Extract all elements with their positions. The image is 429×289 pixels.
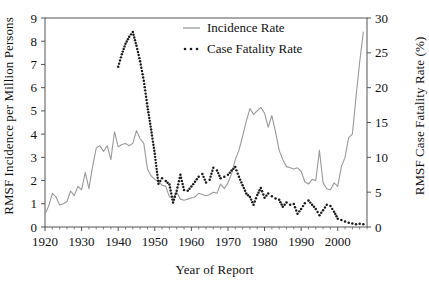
data-point xyxy=(295,209,297,211)
data-point xyxy=(171,195,173,197)
data-point xyxy=(261,190,263,192)
y-tick-label-left: 4 xyxy=(31,127,38,142)
data-point xyxy=(289,203,292,206)
data-point xyxy=(117,66,120,69)
legend-swatch-dotted xyxy=(184,48,187,51)
y-tick-label-left: 1 xyxy=(31,196,38,211)
data-point xyxy=(143,79,146,82)
data-point xyxy=(121,53,124,56)
data-point xyxy=(149,125,151,127)
y-tick-label-left: 6 xyxy=(31,80,38,95)
y-tick-label-right: 5 xyxy=(375,185,382,200)
data-point xyxy=(156,174,158,176)
data-point xyxy=(152,144,154,146)
data-point xyxy=(204,178,206,180)
data-point xyxy=(154,159,156,161)
data-point xyxy=(135,42,137,44)
data-point xyxy=(197,176,200,179)
data-point xyxy=(216,169,219,172)
data-point xyxy=(251,201,253,203)
data-point xyxy=(260,187,263,190)
data-point xyxy=(229,171,231,173)
y-tick-label-left: 3 xyxy=(31,150,38,165)
data-point xyxy=(169,189,171,191)
data-point xyxy=(156,171,158,173)
data-point xyxy=(336,217,339,220)
data-point xyxy=(142,76,144,78)
data-point xyxy=(235,169,237,171)
x-axis-ticks: 192019301940195019601970198019902000 xyxy=(32,227,367,249)
data-point xyxy=(149,123,151,125)
data-point xyxy=(285,201,288,204)
data-point xyxy=(155,168,157,170)
data-point xyxy=(334,213,336,215)
data-point xyxy=(133,36,135,38)
data-point xyxy=(144,92,146,94)
data-point xyxy=(271,195,274,198)
data-point xyxy=(211,170,213,172)
data-point xyxy=(154,156,156,158)
data-point xyxy=(161,177,164,180)
data-point xyxy=(150,131,152,133)
data-point xyxy=(152,140,154,142)
data-point xyxy=(150,128,153,131)
data-point xyxy=(120,56,122,58)
data-point xyxy=(250,198,252,200)
data-point xyxy=(178,180,180,182)
data-point xyxy=(333,210,336,213)
data-point xyxy=(165,180,168,183)
data-point xyxy=(188,187,190,189)
data-point xyxy=(145,99,147,101)
y-tick-label-left: 9 xyxy=(31,11,38,26)
data-point xyxy=(202,176,204,178)
data-point xyxy=(143,83,145,85)
data-point xyxy=(175,193,177,195)
data-point xyxy=(140,66,142,68)
data-point xyxy=(166,182,168,184)
data-point xyxy=(183,189,186,192)
data-point xyxy=(170,192,172,194)
data-series-group xyxy=(45,31,365,226)
data-point xyxy=(300,208,303,211)
data-point xyxy=(147,111,149,113)
data-point xyxy=(151,134,153,136)
y-tick-label-right: 25 xyxy=(375,45,388,60)
data-point xyxy=(148,117,150,119)
data-point xyxy=(137,51,139,53)
data-point xyxy=(173,198,175,200)
data-point xyxy=(132,34,134,36)
y-tick-label-left: 7 xyxy=(31,57,38,72)
data-point xyxy=(265,194,267,196)
data-point xyxy=(283,204,285,206)
data-point xyxy=(130,33,132,35)
data-point xyxy=(190,185,193,188)
data-point xyxy=(155,165,157,167)
data-point xyxy=(201,173,204,176)
data-point xyxy=(192,183,194,185)
data-point xyxy=(335,215,337,217)
data-point xyxy=(304,202,307,205)
data-point xyxy=(263,196,266,199)
data-point xyxy=(282,206,285,209)
data-point xyxy=(307,199,310,202)
data-point xyxy=(362,223,365,226)
data-point xyxy=(313,206,315,208)
data-point xyxy=(274,197,277,200)
data-point xyxy=(296,213,299,216)
data-point xyxy=(278,199,281,202)
data-point xyxy=(210,173,212,175)
data-point xyxy=(351,222,354,225)
data-point xyxy=(179,174,182,177)
x-tick-label: 1970 xyxy=(215,234,241,249)
data-point xyxy=(148,114,150,116)
data-point xyxy=(176,186,178,188)
data-point xyxy=(141,70,143,72)
data-point xyxy=(331,208,333,210)
data-point xyxy=(262,193,264,195)
series-incidence-rate xyxy=(45,32,363,214)
y-tick-label-left: 2 xyxy=(31,173,38,188)
legend-label: Incidence Rate xyxy=(207,20,285,35)
data-point xyxy=(218,174,220,176)
data-point xyxy=(123,45,125,47)
data-point xyxy=(255,197,257,199)
